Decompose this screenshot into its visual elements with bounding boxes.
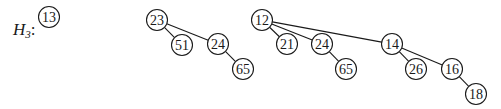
tree-node: 26: [406, 59, 427, 80]
node-value: 16: [445, 62, 459, 77]
node-value: 65: [339, 62, 353, 77]
tree-13: 13: [39, 7, 60, 28]
tree-edge: [164, 27, 174, 37]
binomial-heap-diagram: H3: 13235124651221246514261618: [0, 0, 501, 109]
node-value: 23: [150, 13, 164, 28]
tree-23: 23512465: [147, 10, 254, 80]
tree-node: 18: [466, 84, 487, 105]
tree-edge: [459, 77, 468, 87]
tree-edge: [225, 51, 235, 61]
tree-node: 24: [208, 34, 229, 55]
tree-node: 65: [336, 59, 357, 80]
tree-edge: [270, 27, 280, 36]
tree-canvas: 13235124651221246514261618: [0, 0, 501, 109]
tree-node: 16: [442, 59, 463, 80]
node-value: 26: [409, 62, 423, 77]
tree-edge: [329, 52, 338, 62]
node-value: 13: [42, 10, 56, 25]
tree-node: 14: [382, 34, 403, 55]
tree-node: 13: [39, 7, 60, 28]
tree-edge: [399, 52, 408, 62]
tree-node: 51: [172, 35, 193, 56]
tree-node: 24: [312, 34, 333, 55]
node-value: 24: [211, 37, 225, 52]
node-value: 65: [236, 62, 250, 77]
node-value: 14: [385, 37, 399, 52]
tree-node: 12: [252, 10, 273, 31]
node-value: 24: [315, 37, 329, 52]
tree-12: 1221246514261618: [252, 10, 487, 105]
node-value: 18: [469, 87, 483, 102]
tree-node: 21: [277, 34, 298, 55]
tree-node: 23: [147, 10, 168, 31]
node-value: 12: [255, 13, 269, 28]
node-value: 21: [280, 37, 294, 52]
tree-node: 65: [233, 59, 254, 80]
node-value: 51: [175, 38, 189, 53]
